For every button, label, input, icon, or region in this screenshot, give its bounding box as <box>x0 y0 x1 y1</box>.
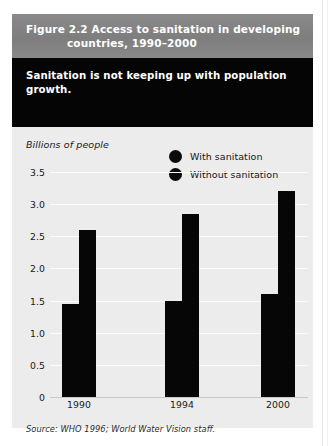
y-axis-tick-label: 3.0 <box>18 199 45 210</box>
figure-source-note: Source: WHO 1996; World Water Vision sta… <box>26 424 215 434</box>
y-axis-tick-label: 3.5 <box>18 167 45 178</box>
y-axis-tick-label: 1.0 <box>18 328 45 339</box>
figure-subtitle-band: Sanitation is not keeping up with popula… <box>12 58 313 127</box>
document-page: Figure 2.2 Access to sanitation in devel… <box>0 0 334 446</box>
bar-2000-with-sanitation <box>261 294 278 397</box>
x-axis-tick-label-2000: 2000 <box>254 399 302 410</box>
x-axis-tick-label-1994: 1994 <box>158 399 206 410</box>
page-edge-line-secondary <box>327 0 328 446</box>
x-axis-tick-label-1990: 1990 <box>55 399 103 410</box>
gridline <box>50 204 308 205</box>
bar-1994-without-sanitation <box>182 214 199 397</box>
y-axis-tick-label: 2.0 <box>18 263 45 274</box>
axis-baseline <box>50 397 308 398</box>
figure-title-band: Figure 2.2 Access to sanitation in devel… <box>12 14 313 58</box>
figure-title-line2: countries, 1990–2000 <box>67 36 306 50</box>
bar-1990-without-sanitation <box>79 230 96 397</box>
y-axis-tick-label: 2.5 <box>18 231 45 242</box>
bar-1994-with-sanitation <box>165 301 182 397</box>
y-axis-tick-label: 0 <box>18 392 45 403</box>
y-axis-tick-label: 1.5 <box>18 296 45 307</box>
figure-container: Figure 2.2 Access to sanitation in devel… <box>12 14 313 428</box>
y-axis-tick-label: 0.5 <box>18 360 45 371</box>
bar-2000-without-sanitation <box>278 191 295 397</box>
bar-chart: 3.53.02.52.01.51.00.50199019942000 <box>12 127 313 428</box>
bar-1990-with-sanitation <box>62 304 79 397</box>
figure-title-line1: Figure 2.2 Access to sanitation in devel… <box>26 23 300 35</box>
figure-subtitle: Sanitation is not keeping up with popula… <box>26 69 308 97</box>
page-edge-line <box>322 0 323 446</box>
chart-plot-area: Billions of people With sanitation Witho… <box>12 127 313 428</box>
gridline <box>50 172 308 173</box>
figure-title: Figure 2.2 Access to sanitation in devel… <box>26 22 306 50</box>
